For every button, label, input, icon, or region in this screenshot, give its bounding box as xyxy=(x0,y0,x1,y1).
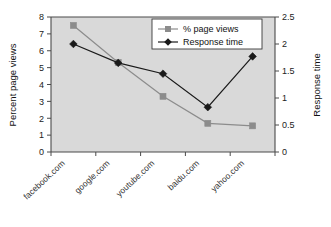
data-point-square-marker xyxy=(70,22,76,28)
left-tick-label: 5 xyxy=(39,63,44,73)
data-point-square-marker xyxy=(160,93,166,99)
left-axis-tick-labels: 012345678 xyxy=(39,12,44,157)
data-point-square-marker xyxy=(250,123,256,129)
left-tick-label: 0 xyxy=(39,147,44,157)
right-tick-label: 2.5 xyxy=(282,12,295,22)
chart-legend: % page viewsResponse time xyxy=(152,19,262,49)
left-tick-label: 2 xyxy=(39,114,44,124)
right-tick-label: 0.5 xyxy=(282,120,295,130)
right-tick-label: 1 xyxy=(282,93,287,103)
left-tick-label: 8 xyxy=(39,12,44,22)
left-axis-title: Percent page views xyxy=(7,43,18,126)
data-point-square-marker xyxy=(205,120,211,126)
left-tick-label: 6 xyxy=(39,46,44,56)
chart-svg: 012345678 00.511.522.5 facebook.comgoogl… xyxy=(0,0,331,227)
left-tick-label: 4 xyxy=(39,80,44,90)
legend-label: Response time xyxy=(183,37,243,47)
left-tick-label: 1 xyxy=(39,130,44,140)
legend-square-marker xyxy=(165,26,171,32)
legend-label: % page views xyxy=(183,24,239,34)
chart-container: 012345678 00.511.522.5 facebook.comgoogl… xyxy=(0,0,331,227)
left-tick-label: 7 xyxy=(39,29,44,39)
right-tick-label: 2 xyxy=(282,39,287,49)
right-tick-label: 0 xyxy=(282,147,287,157)
right-tick-label: 1.5 xyxy=(282,66,295,76)
right-axis-title: Response time xyxy=(311,53,322,116)
left-tick-label: 3 xyxy=(39,97,44,107)
